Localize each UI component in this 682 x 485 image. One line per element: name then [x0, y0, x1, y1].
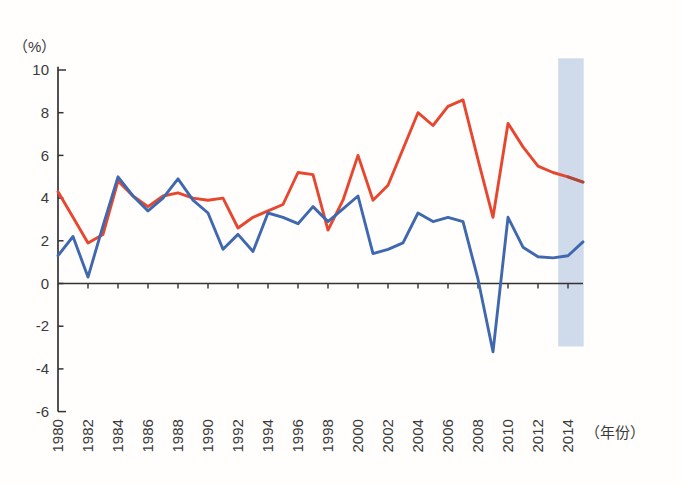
- x-tick-label: 1992: [229, 419, 246, 452]
- x-tick-label: 1998: [319, 419, 336, 452]
- x-tick-label: 1988: [169, 419, 186, 452]
- y-tick-label: 4: [41, 189, 49, 206]
- x-tick-label: 1980: [49, 419, 66, 452]
- y-tick-label: -2: [36, 317, 49, 334]
- x-tick-label: 2006: [439, 419, 456, 452]
- y-tick-label: 10: [32, 61, 49, 78]
- x-tick-label: 1996: [289, 419, 306, 452]
- y-axis-unit-label: （%）: [13, 38, 56, 55]
- series-red-line: [58, 100, 583, 243]
- forecast-band: [558, 58, 584, 346]
- forecast-band-layer: [558, 58, 584, 346]
- x-tick-label: 1984: [109, 419, 126, 452]
- x-tick-label: 2002: [379, 419, 396, 452]
- y-tick-label: 2: [41, 232, 49, 249]
- growth-rate-line-chart: 1086420-2-4-6198019821984198619881990199…: [0, 0, 682, 485]
- y-tick-label: 8: [41, 104, 49, 121]
- y-tick-label: -6: [36, 403, 49, 420]
- x-tick-label: 1986: [139, 419, 156, 452]
- x-tick-label: 2000: [349, 419, 366, 452]
- series-layer: [58, 100, 583, 352]
- x-tick-label: 1990: [199, 419, 216, 452]
- x-tick-label: 2012: [529, 419, 546, 452]
- x-tick-label: 2008: [469, 419, 486, 452]
- chart-canvas: 1086420-2-4-6198019821984198619881990199…: [0, 0, 682, 485]
- x-tick-label: 2010: [499, 419, 516, 452]
- x-tick-label: 2014: [559, 419, 576, 452]
- y-tick-label: 6: [41, 147, 49, 164]
- y-tick-label: -4: [36, 360, 49, 377]
- x-tick-label: 2004: [409, 419, 426, 452]
- y-tick-label: 0: [41, 275, 49, 292]
- tick-label-layer: 1086420-2-4-6198019821984198619881990199…: [32, 61, 576, 452]
- x-axis-unit-label: （年份）: [585, 424, 645, 441]
- x-tick-label: 1982: [79, 419, 96, 452]
- x-tick-label: 1994: [259, 419, 276, 452]
